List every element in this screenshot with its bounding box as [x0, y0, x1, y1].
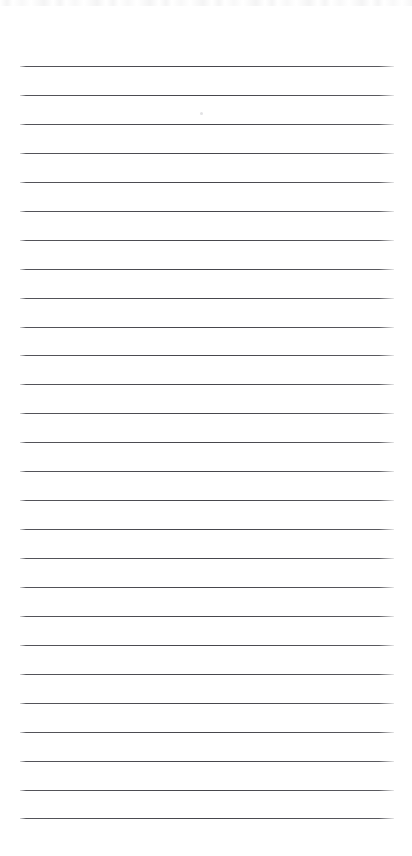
ruled-line — [20, 674, 394, 675]
ruled-line — [20, 645, 394, 646]
ruled-line — [20, 153, 394, 154]
ruled-line — [20, 95, 394, 96]
ruled-line — [20, 355, 394, 356]
ruled-line — [20, 269, 394, 270]
ruled-line — [20, 298, 394, 299]
ruled-line — [20, 384, 394, 385]
ruled-line — [20, 587, 394, 588]
ruled-line — [20, 761, 394, 762]
ruled-line — [20, 327, 394, 328]
ruled-line — [20, 442, 394, 443]
ruled-line — [20, 211, 394, 212]
ruled-line — [20, 790, 394, 791]
ruled-line — [20, 124, 394, 125]
ruled-line — [20, 529, 394, 530]
ruled-line — [20, 500, 394, 501]
ruled-line — [20, 558, 394, 559]
ruled-line — [20, 240, 394, 241]
ruled-line — [20, 616, 394, 617]
ruled-lines-layer — [0, 0, 412, 856]
ruled-line — [20, 182, 394, 183]
notepad-page — [0, 0, 412, 856]
ruled-line — [20, 66, 394, 67]
ruled-line — [20, 818, 394, 819]
ruled-line — [20, 413, 394, 414]
ruled-line — [20, 732, 394, 733]
ruled-line — [20, 703, 394, 704]
ruled-line — [20, 471, 394, 472]
